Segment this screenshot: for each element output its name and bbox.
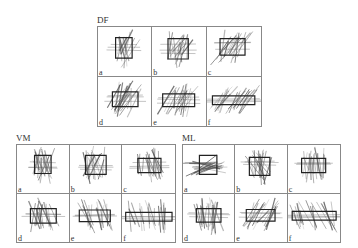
panel-ml-a: a [183,145,235,194]
panel-ml-e: e [235,194,287,243]
panel-label: a [18,186,22,194]
panel-label: a [99,69,103,77]
stimulus-plot [70,194,122,243]
stimulus-plot [98,27,151,76]
stimulus-plot [152,27,205,76]
panel-ml-c: c [288,145,340,194]
stimulus-plot [122,145,175,193]
panel-vm-a: a [17,145,70,194]
panel-df-c: c [207,27,261,77]
stimulus-plot [235,145,286,193]
panel-df-e: e [152,77,206,127]
panel-label: d [99,119,103,126]
panel-df-f: f [207,77,261,127]
panel-vm-e: e [70,194,123,243]
panel-label: d [184,235,188,242]
panel-label: e [236,235,240,242]
panel-label: f [208,119,211,126]
stimulus-plot [288,145,340,193]
stimulus-plot [152,77,205,127]
panel-vm-b: b [70,145,123,194]
panel-label: d [18,235,22,242]
stimulus-plot [122,194,175,243]
group-label-vm: VM [16,134,31,143]
stimulus-plot [183,194,234,243]
panel-label: c [289,186,293,194]
panel-label: a [184,186,188,194]
panel-label: f [123,235,126,242]
panel-label: b [236,186,240,194]
panel-grid-vm: abcdef [16,144,176,243]
panel-df-d: d [98,77,152,127]
panel-vm-c: c [122,145,175,194]
stimulus-plot [183,145,234,193]
panel-label: e [71,235,75,242]
stimulus-plot [207,27,261,76]
panel-grid-ml: abcdef [182,144,341,243]
stimulus-plot [17,145,69,193]
panel-label: b [71,186,75,194]
group-label-ml: ML [182,134,196,143]
stimulus-plot [17,194,69,243]
panel-ml-b: b [235,145,287,194]
panel-label: b [153,69,157,77]
stimulus-plot [207,77,261,127]
panel-ml-d: d [183,194,235,243]
panel-vm-d: d [17,194,70,243]
stimulus-plot [235,194,286,243]
panel-grid-df: abcdef [97,26,262,127]
panel-label: c [208,69,212,77]
panel-df-b: b [152,27,206,77]
panel-df-a: a [98,27,152,77]
group-label-df: DF [97,16,109,25]
panel-vm-f: f [122,194,175,243]
panel-label: f [289,235,292,242]
panel-label: e [153,119,157,126]
stimulus-plot [288,194,340,243]
panel-ml-f: f [288,194,340,243]
panel-label: c [123,186,127,194]
stimulus-plot [98,77,151,127]
stimulus-plot [70,145,122,193]
